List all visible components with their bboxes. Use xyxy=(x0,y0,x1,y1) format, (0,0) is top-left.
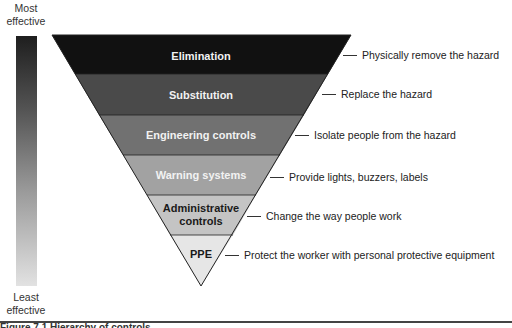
label-engineering-controls: Engineering controls xyxy=(146,129,256,142)
label-elimination: Elimination xyxy=(171,50,230,63)
admin-line-2: controls xyxy=(163,215,239,228)
leader-line xyxy=(247,216,261,217)
label-ppe: PPE xyxy=(190,248,212,261)
annotation-administrative-controls: Change the way people work xyxy=(247,210,401,222)
label-warning-systems: Warning systems xyxy=(156,169,247,182)
annotation-substitution: Replace the hazard xyxy=(322,88,432,100)
annotation-text: Isolate people from the hazard xyxy=(314,129,456,141)
annotation-text: Physically remove the hazard xyxy=(362,49,499,61)
annotation-engineering-controls: Isolate people from the hazard xyxy=(295,129,456,141)
annotation-text: Replace the hazard xyxy=(341,88,432,100)
leader-line xyxy=(225,255,239,256)
leader-line xyxy=(343,55,357,56)
figure-caption: Figure 7.1 Hierarchy of controls xyxy=(0,322,151,328)
annotation-warning-systems: Provide lights, buzzers, labels xyxy=(270,171,428,183)
label-substitution: Substitution xyxy=(169,89,233,102)
annotation-text: Change the way people work xyxy=(266,210,401,222)
annotation-text: Protect the worker with personal protect… xyxy=(244,249,494,261)
annotation-ppe: Protect the worker with personal protect… xyxy=(225,249,494,261)
admin-line-1: Administrative xyxy=(163,202,239,215)
label-administrative-controls: Administrative controls xyxy=(163,202,239,228)
leader-line xyxy=(322,94,336,95)
leader-line xyxy=(295,135,309,136)
leader-line xyxy=(270,177,284,178)
annotation-text: Provide lights, buzzers, labels xyxy=(289,171,428,183)
annotation-elimination: Physically remove the hazard xyxy=(343,49,499,61)
